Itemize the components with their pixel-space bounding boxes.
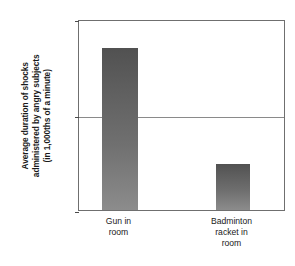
y-axis-tick-mark-50 [75, 21, 79, 22]
x-axis-label-gun-in-room: Gun in room [74, 216, 164, 238]
x-axis-label-badminton-racket-in-room-line-2: racket in [187, 227, 277, 238]
x-axis-label-gun-in-room-line-2: room [74, 227, 164, 238]
plot-area: 304050 [78, 20, 285, 211]
y-axis-tick-mark-40 [75, 117, 79, 118]
y-axis-title-line-2: administered by angry subjects [30, 55, 41, 178]
bar-badminton-racket-in-room [216, 164, 250, 210]
bar-chart-figure: Average duration of shocks administered … [0, 0, 295, 266]
bar-gun-in-room [102, 48, 138, 210]
x-axis-label-badminton-racket-in-room-line-3: room [187, 238, 277, 249]
x-axis-label-badminton-racket-in-room: Badminton racket in room [187, 216, 277, 249]
y-axis-title: Average duration of shocks administered … [0, 0, 72, 232]
x-axis-label-gun-in-room-line-1: Gun in [74, 216, 164, 227]
y-axis-tick-mark-30 [75, 212, 79, 213]
y-axis-title-line-3: (in 1,000ths of a minute) [42, 55, 53, 178]
y-axis-title-line-1: Average duration of shocks [19, 55, 30, 178]
x-axis-label-badminton-racket-in-room-line-1: Badminton [187, 216, 277, 227]
